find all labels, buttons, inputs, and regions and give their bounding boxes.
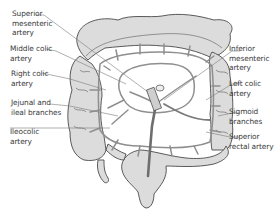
label-line: mesenteric <box>229 54 269 64</box>
label-right-colic-artery: Right colic artery <box>11 69 48 88</box>
aorta <box>146 85 164 111</box>
label-line: Superior <box>229 132 273 142</box>
label-line: Ileocolic <box>10 127 39 137</box>
label-line: Middle colic <box>10 44 52 54</box>
label-line: artery <box>12 28 52 38</box>
label-line: rectal artery <box>229 142 273 152</box>
label-line: mesenteric <box>12 19 52 29</box>
label-line: Left colic <box>229 79 261 89</box>
label-middle-colic-artery: Middle colic artery <box>10 44 52 63</box>
label-inferior-mesenteric-artery: Inferior mesenteric artery <box>229 44 269 73</box>
label-line: Sigmoid <box>229 107 262 117</box>
label-sigmoid-branches: Sigmoid branches <box>229 107 262 126</box>
label-superior-mesenteric-artery: Superior mesenteric artery <box>12 9 52 38</box>
label-jejunal-ileal-branches: Jejunal and ileal branches <box>11 98 61 117</box>
label-left-colic-artery: Left colic artery <box>229 79 261 98</box>
label-line: artery <box>11 79 48 89</box>
label-line: artery <box>229 89 261 99</box>
label-line: ileal branches <box>11 108 61 118</box>
label-line: Superior <box>12 9 52 19</box>
label-superior-rectal-artery: Superior rectal artery <box>229 132 273 151</box>
label-line: artery <box>10 137 39 147</box>
label-line: Right colic <box>11 69 48 79</box>
label-line: artery <box>229 63 269 73</box>
label-line: Inferior <box>229 44 269 54</box>
label-line: Jejunal and <box>11 98 61 108</box>
label-line: artery <box>10 54 52 64</box>
label-line: branches <box>229 117 262 127</box>
label-ileocolic-artery: Ileocolic artery <box>10 127 39 146</box>
